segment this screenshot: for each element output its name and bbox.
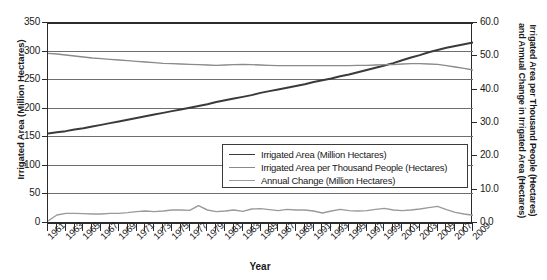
plot-area [47, 22, 472, 222]
y-axis-right-tick-label: 60.0 [480, 16, 514, 27]
x-axis-tick [392, 222, 393, 231]
legend-item-label: Irrigated Area (Million Hectares) [261, 149, 386, 160]
legend-item: Irrigated Area per Thousand People (Hect… [229, 161, 467, 174]
x-axis-tick [109, 222, 110, 231]
legend-item-label: Irrigated Area per Thousand People (Hect… [261, 162, 447, 173]
x-axis-tick [260, 222, 261, 231]
x-axis-tick [233, 222, 234, 231]
chart-legend: Irrigated Area (Million Hectares)Irrigat… [222, 144, 468, 188]
y-axis-right-tick-label: 20.0 [480, 149, 514, 160]
x-axis-title: Year [0, 261, 520, 272]
y-axis-right-tick-label: 50.0 [480, 49, 514, 60]
x-axis-tick [251, 222, 252, 231]
y-axis-left-tick-label: 0 [8, 216, 40, 227]
y-axis-left-tick-label: 100 [8, 159, 40, 170]
y-axis-left-tick-label: 300 [8, 45, 40, 56]
x-axis-tick [321, 222, 322, 231]
x-axis-tick [198, 222, 199, 231]
y-axis-right-title-line2: and Annual Change in Irrigated Area (Hec… [517, 13, 528, 229]
x-axis-tick [339, 222, 340, 231]
legend-item-label: Annual Change (Million Hectares) [261, 175, 395, 186]
legend-swatch-icon [229, 180, 255, 181]
x-axis-tick [268, 222, 269, 231]
legend-swatch-icon [229, 154, 255, 155]
y-axis-left-tick-label: 150 [8, 130, 40, 141]
series-line [48, 53, 473, 70]
x-axis-tick [180, 222, 181, 231]
y-axis-right-tick-label: 10.0 [480, 183, 514, 194]
x-axis-tick [127, 222, 128, 231]
x-axis-tick [428, 222, 429, 231]
x-axis-tick [304, 222, 305, 231]
y-axis-left-tick-label: 350 [8, 16, 40, 27]
x-axis-tick [410, 222, 411, 231]
legend-item: Annual Change (Million Hectares) [229, 174, 467, 187]
y-axis-right-title-line1: Irrigated Area per Thousand People (Hect… [527, 13, 538, 229]
y-axis-left-tick-label: 200 [8, 102, 40, 113]
series-line [48, 43, 473, 134]
x-axis-tick [286, 222, 287, 231]
y-axis-right-tick-label: 30.0 [480, 116, 514, 127]
x-axis-tick [162, 222, 163, 231]
x-axis-tick [215, 222, 216, 231]
y-axis-left-tick-label: 50 [8, 187, 40, 198]
x-axis-tick [74, 222, 75, 231]
x-axis-tick [463, 222, 464, 231]
x-axis-tick [445, 222, 446, 231]
x-axis-tick [375, 222, 376, 231]
series-lines [48, 22, 473, 222]
chart-figure: Irrigated Area (Million Hectares) Irriga… [0, 0, 547, 280]
x-axis-tick [56, 222, 57, 231]
y-axis-right-tick-label: 40.0 [480, 83, 514, 94]
x-axis-tick [91, 222, 92, 231]
x-axis-tick [144, 222, 145, 231]
y-axis-left-tick-label: 250 [8, 73, 40, 84]
legend-swatch-icon [229, 167, 255, 168]
y-axis-right-title: Irrigated Area per Thousand People (Hect… [517, 13, 538, 229]
legend-item: Irrigated Area (Million Hectares) [229, 148, 467, 161]
x-axis-tick [357, 222, 358, 231]
